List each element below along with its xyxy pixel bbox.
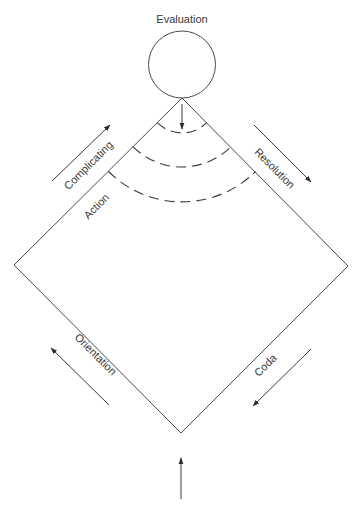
- coda-arrow-icon: [253, 349, 311, 406]
- coda-label: Coda: [252, 351, 280, 379]
- resolution-label: Resolution: [252, 146, 297, 191]
- evaluation-circle: [149, 31, 216, 98]
- narrative-diamond: [14, 98, 348, 433]
- dashed-arc-2: [133, 147, 231, 167]
- narrative-structure-diagram: Evaluation Complicating Action Resolutio…: [0, 0, 362, 511]
- action-label: Action: [81, 191, 111, 221]
- dashed-arc-3: [109, 172, 256, 202]
- evaluation-label: Evaluation: [156, 13, 207, 25]
- orientation-label: Orientation: [73, 331, 120, 378]
